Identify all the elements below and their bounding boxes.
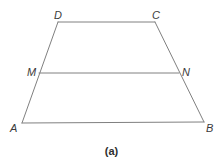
side-ab [22,122,204,123]
figure-caption: (a) [0,146,223,157]
vertex-label-m: M [27,67,36,78]
vertex-label-c: C [152,10,160,21]
trapezoid-diagram [0,0,223,166]
vertex-label-d: D [54,10,62,21]
vertex-label-b: B [206,123,213,134]
geometry-figure: A B C D M N (a) [0,0,223,166]
vertex-label-a: A [10,123,17,134]
vertex-label-n: N [182,67,190,78]
side-bc [155,22,204,122]
